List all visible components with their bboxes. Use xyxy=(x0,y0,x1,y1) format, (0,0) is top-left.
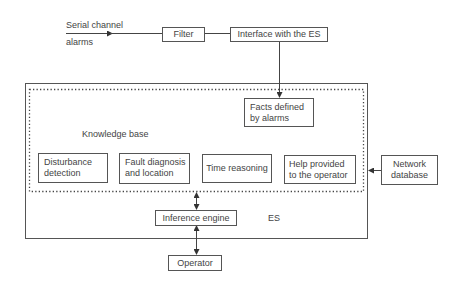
facts-box: Facts defined by alarms xyxy=(244,98,314,127)
help-operator-box: Help provided to the operator xyxy=(284,155,356,184)
network-database-box: Network database xyxy=(381,155,438,185)
operator-label: Operator xyxy=(177,258,213,269)
filter-label: Filter xyxy=(174,29,194,40)
operator-box: Operator xyxy=(168,255,222,271)
filter-box: Filter xyxy=(162,27,205,42)
disturbance-detection-box: Disturbance detection xyxy=(38,153,108,183)
knowledge-base-label: Knowledge base xyxy=(82,129,149,139)
fault-diagnosis-box: Fault diagnosis and location xyxy=(119,153,190,184)
alarms-label: alarms xyxy=(66,37,93,47)
es-label: ES xyxy=(268,213,280,223)
network-database-label: Network database xyxy=(391,159,428,181)
inference-engine-label: Inference engine xyxy=(162,213,229,224)
interface-label: Interface with the ES xyxy=(237,29,320,40)
time-reasoning-label: Time reasoning xyxy=(206,163,268,174)
serial-channel-label: Serial channel xyxy=(66,20,123,30)
time-reasoning-box: Time reasoning xyxy=(202,154,272,183)
interface-box: Interface with the ES xyxy=(230,27,328,42)
inference-engine-box: Inference engine xyxy=(155,210,237,226)
